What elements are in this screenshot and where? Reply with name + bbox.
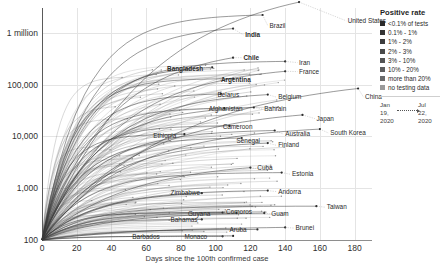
country-label: Comoros	[226, 209, 252, 215]
legend-swatch	[380, 30, 385, 35]
curve-endpoint-dot	[203, 145, 204, 146]
curve-endpoint-dot	[278, 82, 279, 83]
country-label: Afghanistan	[209, 106, 243, 112]
country-label: Taiwan	[327, 204, 347, 210]
curve-endpoint-dot	[274, 204, 275, 205]
curve-endpoint-dot	[257, 67, 258, 68]
y-axis-tick-label: 10,000	[12, 131, 38, 141]
label-leader-line	[303, 115, 315, 119]
legend-swatch	[380, 49, 385, 54]
curve-endpoint-dot	[217, 122, 218, 123]
curve-endpoint-dot	[152, 69, 153, 70]
legend-swatch	[380, 58, 385, 63]
curve-endpoint-dot	[209, 186, 210, 187]
curve-endpoint-dot	[174, 85, 175, 86]
date-line: 19,	[380, 109, 394, 117]
curve-endpoint-dot	[140, 97, 141, 98]
curve-endpoint-dot	[258, 112, 259, 113]
curve-endpoint-dot	[227, 184, 228, 185]
date-end-label: Jul22,2020	[418, 101, 432, 125]
x-axis-tick-label: 60	[141, 243, 150, 253]
date-line: 2020	[418, 117, 432, 125]
label-leader-line	[285, 227, 294, 228]
legend-item-label: <0.1% of tests	[388, 20, 428, 27]
x-axis-tick-label: 120	[243, 243, 257, 253]
country-label: Iran	[299, 59, 310, 65]
curve-endpoint-dot	[211, 114, 212, 115]
legend-item[interactable]: 1% - 2%	[380, 38, 446, 45]
country-label: Zimbabwe	[171, 190, 200, 196]
curve-endpoint-dot	[132, 197, 133, 198]
curve-endpoint-dot	[217, 176, 218, 177]
x-axis-tick-label: 160	[313, 243, 327, 253]
legend-swatch	[380, 76, 385, 81]
curve-endpoint-dot	[170, 129, 171, 130]
country-label: Bangladesh	[167, 66, 203, 72]
curve-endpoint-dot	[182, 112, 183, 113]
legend-divider	[380, 96, 440, 97]
legend-item[interactable]: 10% - 20%	[380, 66, 446, 73]
date-range-note: Jan19,2020 Jul22,2020	[380, 101, 444, 127]
curve-endpoint-dot	[132, 158, 133, 159]
curve-endpoint-dot	[213, 68, 214, 69]
x-axis-tick-label: 100	[209, 243, 223, 253]
country-label: Guam	[271, 211, 288, 217]
legend-item[interactable]: 2% - 3%	[380, 48, 446, 55]
legend-item[interactable]: 3% - 10%	[380, 57, 446, 64]
curve-endpoint-dot	[222, 194, 223, 195]
curve-endpoint-dot	[275, 155, 276, 156]
legend-item[interactable]: 0.1% - 1%	[380, 29, 446, 36]
label-leader-line	[358, 89, 364, 98]
country-label: Cameroon	[223, 124, 253, 130]
curve-endpoint-dot	[180, 179, 181, 180]
country-label: Finland	[278, 142, 299, 148]
legend-title: Positive rate	[380, 8, 446, 17]
country-label: Belarus	[217, 91, 239, 97]
curve-endpoint-dot	[172, 163, 173, 164]
country-label: Ethiopia	[153, 133, 176, 139]
curve-endpoint-dot	[231, 164, 232, 165]
curve-endpoint-dot	[200, 121, 201, 122]
label-leader-line	[316, 206, 325, 207]
x-axis-tick-label: 80	[176, 243, 185, 253]
curve-endpoint-dot	[261, 202, 262, 203]
curve-endpoint-dot	[205, 117, 206, 118]
curve-endpoint-dot	[258, 69, 259, 70]
legend-item[interactable]: <0.1% of tests	[380, 20, 446, 27]
curve-endpoint-dot	[246, 201, 247, 202]
curve-endpoint-dot	[270, 205, 271, 206]
curve-endpoint-dot	[211, 167, 212, 168]
country-label: South Korea	[330, 130, 366, 136]
curve-endpoint-dot	[168, 185, 169, 186]
curve-endpoint-dot	[115, 106, 116, 107]
date-start-label: Jan19,2020	[380, 101, 394, 125]
country-label: Barbados	[132, 234, 159, 240]
country-label: Brunei	[296, 225, 314, 231]
curve-endpoint-dot	[252, 114, 253, 115]
country-label: Chile	[243, 54, 259, 60]
legend-item[interactable]: more than 20%	[380, 75, 446, 82]
date-line: Jan	[380, 101, 394, 109]
y-axis-tick-label: 100,000	[7, 80, 38, 90]
label-leader-line	[320, 129, 329, 133]
x-axis-tick-label: 0	[40, 243, 45, 253]
country-label: Andorra	[278, 188, 301, 194]
country-label: France	[299, 68, 319, 74]
country-label: Aruba	[230, 227, 247, 233]
legend-item-label: no testing data	[388, 84, 429, 91]
legend-item-label: 0.1% - 1%	[388, 29, 417, 36]
label-leader-line	[263, 15, 268, 26]
curve-endpoint-dot	[240, 183, 241, 184]
legend-items: <0.1% of tests0.1% - 1%1% - 2%2% - 3%3% …	[380, 20, 446, 91]
legend-item[interactable]: no testing data	[380, 84, 446, 91]
curve-endpoint-dot	[183, 199, 184, 200]
legend-swatch	[380, 85, 385, 90]
curve-endpoint-dot	[161, 69, 162, 70]
legend: Positive rate <0.1% of tests0.1% - 1%1% …	[380, 8, 446, 127]
curve-endpoint-dot	[139, 155, 140, 156]
label-leader-line	[254, 108, 263, 110]
country-label: Australia	[285, 131, 310, 137]
curve-endpoint-dot	[169, 113, 170, 114]
curve-endpoint-dot	[158, 84, 159, 85]
date-arrow-icon	[397, 110, 417, 112]
